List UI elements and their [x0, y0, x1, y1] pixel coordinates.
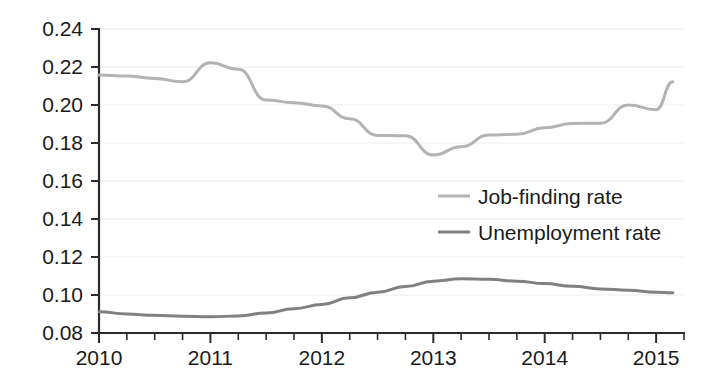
y-tick-label: 0.20 — [42, 93, 83, 116]
x-tick-label: 2011 — [188, 346, 233, 369]
y-tick-label: 0.16 — [42, 169, 83, 192]
x-tick-label: 2014 — [521, 346, 568, 369]
x-tick-label: 2012 — [298, 346, 345, 369]
y-tick-label: 0.12 — [42, 245, 83, 268]
series-line-unemployment-rate — [99, 279, 673, 317]
y-tick-label: 0.18 — [42, 131, 83, 154]
x-axis-tick-labels: 201020112012201320142015 — [76, 346, 680, 369]
x-axis-ticks — [99, 333, 684, 343]
chart-canvas: 0.080.100.120.140.160.180.200.220.24 201… — [0, 0, 721, 385]
legend-label-job-finding-rate: Job-finding rate — [478, 185, 623, 208]
x-tick-label: 2010 — [76, 346, 123, 369]
y-tick-label: 0.08 — [42, 321, 83, 344]
y-tick-label: 0.10 — [42, 283, 83, 306]
y-tick-label: 0.22 — [42, 55, 83, 78]
x-tick-label: 2013 — [410, 346, 457, 369]
y-tick-label: 0.24 — [42, 17, 83, 40]
y-axis-tick-labels: 0.080.100.120.140.160.180.200.220.24 — [42, 17, 83, 344]
x-tick-label: 2015 — [633, 346, 680, 369]
chart-legend: Job-finding rateUnemployment rate — [438, 185, 661, 244]
series-line-job-finding-rate — [99, 63, 673, 155]
legend-label-unemployment-rate: Unemployment rate — [478, 221, 661, 244]
line-chart: 0.080.100.120.140.160.180.200.220.24 201… — [0, 0, 721, 385]
gridlines — [99, 29, 684, 295]
y-tick-label: 0.14 — [42, 207, 83, 230]
